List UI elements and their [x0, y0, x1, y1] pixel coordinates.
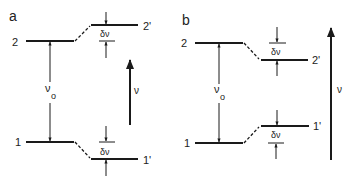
frequency-label-a: ν: [134, 85, 139, 96]
level-1prime-label-b: 1': [313, 120, 321, 132]
level-1prime-label-a: 1': [143, 154, 151, 166]
level-1-connector-b: [244, 127, 259, 143]
level-2prime-label-a: 2': [143, 20, 151, 32]
shift-label-lower-a: δν: [100, 147, 110, 157]
level-1-label-a: 1: [15, 136, 21, 148]
panel-label-a: a: [9, 8, 17, 24]
level-2prime-label-b: 2': [312, 54, 320, 66]
panel-a: a 2 2' δν ν o ν 1 1' δν: [9, 8, 151, 176]
level-2-connector-a: [75, 26, 90, 41]
energy-level-diagram: a 2 2' δν ν o ν 1 1' δν b 2: [0, 0, 357, 181]
level-2-label-a: 2: [12, 36, 18, 48]
transition-sub-b: o: [220, 92, 225, 102]
level-1-connector-a: [75, 142, 90, 158]
transition-sub-a: o: [51, 91, 56, 101]
level-2-connector-b: [244, 43, 259, 59]
level-2-label-b: 2: [181, 37, 187, 49]
shift-label-upper-b: δν: [271, 47, 281, 57]
level-1-label-b: 1: [184, 137, 190, 149]
panel-b: b 2 2' δν ν o 1 1' δν ν: [181, 12, 342, 160]
panel-label-b: b: [182, 12, 190, 28]
frequency-label-b: ν: [337, 84, 342, 95]
shift-label-lower-b: δν: [271, 130, 281, 140]
shift-label-upper-a: δν: [100, 29, 110, 39]
